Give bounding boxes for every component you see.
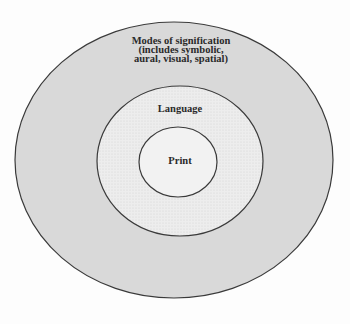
outer-label-line-3: aural, visual, spatial): [101, 54, 261, 63]
diagram-canvas: Modes of signification (includes symboli…: [0, 0, 350, 324]
outer-circle-label: Modes of signification (includes symboli…: [101, 36, 261, 64]
inner-circle-label: Print: [150, 155, 210, 166]
middle-circle-label: Language: [140, 103, 220, 114]
